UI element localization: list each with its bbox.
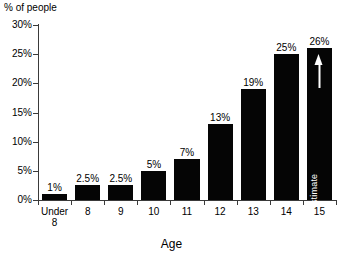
bar-value-label: 26% xyxy=(303,36,336,47)
bar-slot: 19% xyxy=(237,25,270,200)
bar[interactable] xyxy=(42,194,67,200)
bar-slot: Estimate26% xyxy=(303,25,336,200)
bar[interactable] xyxy=(141,171,166,200)
x-axis-tick xyxy=(336,200,337,205)
y-axis-tick-label: 20% xyxy=(0,78,32,88)
x-axis-tick xyxy=(270,200,271,205)
bar[interactable] xyxy=(108,185,133,200)
y-axis-title: % of people xyxy=(4,2,57,14)
x-axis-tick xyxy=(170,200,171,205)
x-axis-tick xyxy=(104,200,105,205)
bar-value-label: 2.5% xyxy=(71,173,104,184)
bar-slot: 7% xyxy=(170,25,203,200)
y-axis-tick-label: 25% xyxy=(0,49,32,59)
y-axis-tick-label: 10% xyxy=(0,137,32,147)
bar-value-label: 1% xyxy=(38,182,71,193)
bar-value-label: 7% xyxy=(170,147,203,158)
bar[interactable] xyxy=(208,124,233,200)
up-arrow-icon xyxy=(315,54,324,88)
x-axis-category-label: 14 xyxy=(270,206,303,217)
x-axis-category-label: 9 xyxy=(104,206,137,217)
estimate-label: Estimate xyxy=(310,174,319,211)
x-axis-tick xyxy=(137,200,138,205)
bar-value-label: 19% xyxy=(237,77,270,88)
estimate-annotation: Estimate xyxy=(307,48,332,200)
x-axis-category-label: Under8 xyxy=(38,206,71,228)
x-axis-title: Age xyxy=(0,237,343,251)
x-axis-tick xyxy=(38,200,39,205)
bar-value-label: 2.5% xyxy=(104,173,137,184)
bar[interactable] xyxy=(274,54,299,200)
y-axis-tick-label: 30% xyxy=(0,20,32,30)
bar[interactable] xyxy=(174,159,199,200)
x-axis-category-label: 11 xyxy=(170,206,203,217)
bar-slot: 1% xyxy=(38,25,71,200)
y-axis-tick-label: 5% xyxy=(0,166,32,176)
bar-value-label: 5% xyxy=(137,159,170,170)
x-axis-tick xyxy=(237,200,238,205)
bar-chart-figure: % of people 0%5%10%15%20%25%30% 1%2.5%2.… xyxy=(0,0,343,260)
bar-slot: 25% xyxy=(270,25,303,200)
x-axis-tick xyxy=(204,200,205,205)
x-axis-tick xyxy=(71,200,72,205)
x-axis-category-label: 15 xyxy=(303,206,336,217)
bar[interactable] xyxy=(75,185,100,200)
x-axis-category-label: 8 xyxy=(71,206,104,217)
bar-series: 1%2.5%2.5%5%7%13%19%25%Estimate26% xyxy=(38,25,336,200)
x-axis-category-label: 13 xyxy=(237,206,270,217)
bar-slot: 5% xyxy=(137,25,170,200)
y-axis-tick-label: 0% xyxy=(0,195,32,205)
bar-slot: 13% xyxy=(204,25,237,200)
bar-value-label: 25% xyxy=(270,42,303,53)
x-axis-tick xyxy=(303,200,304,205)
x-axis-line xyxy=(38,200,337,201)
bar[interactable] xyxy=(241,89,266,200)
y-axis-tick-label: 15% xyxy=(0,108,32,118)
bar-slot: 2.5% xyxy=(104,25,137,200)
x-axis-category-label: 10 xyxy=(137,206,170,217)
bar-value-label: 13% xyxy=(204,112,237,123)
bar[interactable]: Estimate xyxy=(307,48,332,200)
bar-slot: 2.5% xyxy=(71,25,104,200)
x-axis-category-label: 12 xyxy=(204,206,237,217)
